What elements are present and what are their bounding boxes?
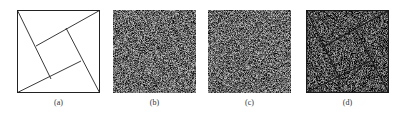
panel-b [113,10,196,93]
panel-d [306,10,389,93]
noise-pattern-b [113,10,196,93]
panel-c [208,10,291,93]
caption-c: (c) [208,98,291,107]
noise-pattern-c [208,10,291,93]
panel-a [17,10,100,93]
caption-b: (b) [113,98,196,107]
caption-d: (d) [306,98,389,107]
pinwheel-diagram [17,10,100,93]
caption-a: (a) [17,98,100,107]
overlay-pattern-d [306,10,389,93]
